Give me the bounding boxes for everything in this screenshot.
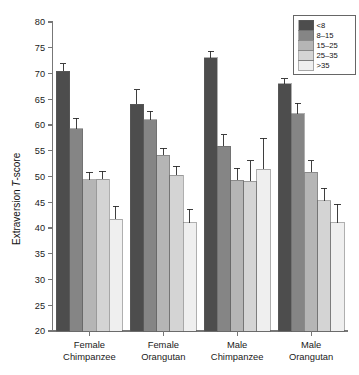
- legend-swatch-1: [299, 30, 314, 40]
- legend-swatch-3: [299, 51, 314, 61]
- bar-2-1: [217, 146, 230, 331]
- bar-3-4: [331, 223, 344, 331]
- bar-0-2: [83, 180, 96, 331]
- bar-1-1: [144, 120, 157, 331]
- y-axis-title: Extraversion T-score: [11, 152, 22, 245]
- bar-1-0: [130, 104, 143, 331]
- legend-label-2: 15–25: [317, 41, 338, 50]
- y-tick-label: 20: [35, 326, 45, 336]
- bar-0-4: [109, 219, 122, 331]
- y-tick-label: 45: [35, 198, 45, 208]
- legend-swatch-4: [299, 61, 314, 71]
- y-tick-label: 75: [35, 43, 45, 53]
- x-category-label-1-line1: Orangutan: [141, 351, 185, 362]
- x-category-label-3-line0: Male: [301, 339, 321, 350]
- bar-2-3: [244, 181, 257, 331]
- y-axis-title-suffix: -score: [11, 152, 22, 180]
- y-tick-label: 30: [35, 275, 45, 285]
- y-axis-title-prefix: Extraversion: [11, 187, 22, 245]
- y-tick-label: 25: [35, 301, 45, 311]
- bar-2-2: [231, 180, 244, 331]
- bar-0-3: [96, 179, 109, 331]
- y-tick-label: 65: [35, 95, 45, 105]
- bar-3-2: [304, 172, 317, 331]
- x-category-label-2-line1: Chimpanzee: [211, 351, 264, 362]
- y-tick-label: 35: [35, 249, 45, 259]
- legend-label-1: 8–15: [317, 31, 334, 40]
- bar-3-1: [291, 114, 304, 331]
- y-tick-label: 40: [35, 223, 45, 233]
- legend-label-4: >35: [317, 61, 330, 70]
- bar-0-0: [56, 71, 69, 331]
- bar-3-0: [278, 84, 291, 331]
- bar-1-2: [157, 155, 170, 331]
- chart-legend: <88–1515–2525–35>35: [294, 16, 356, 75]
- bar-3-3: [318, 201, 331, 331]
- y-axis-title-text: Extraversion T-score: [11, 152, 22, 245]
- x-category-label-3-line1: Orangutan: [289, 351, 333, 362]
- bar-2-0: [204, 58, 217, 331]
- chart-figure: Extraversion T-score 2025303540455055606…: [0, 0, 359, 375]
- bar-2-4: [257, 169, 270, 331]
- legend-swatch-2: [299, 40, 314, 50]
- x-category-label-2-line0: Male: [227, 339, 247, 350]
- y-tick-label: 55: [35, 146, 45, 156]
- x-category-label-0-line0: Female: [74, 339, 105, 350]
- legend-label-3: 25–35: [317, 51, 338, 60]
- bar-0-1: [70, 129, 83, 331]
- y-tick-label: 80: [35, 17, 45, 27]
- bar-1-3: [170, 175, 183, 331]
- x-category-label-0-line1: Chimpanzee: [63, 351, 116, 362]
- x-category-label-1-line0: Female: [148, 339, 179, 350]
- bar-1-4: [183, 223, 196, 331]
- y-tick-label: 70: [35, 69, 45, 79]
- legend-swatch-0: [299, 20, 314, 30]
- extraversion-tscore-grouped-bar-chart: Extraversion T-score 2025303540455055606…: [0, 0, 359, 375]
- y-tick-label: 50: [35, 172, 45, 182]
- legend-label-0: <8: [317, 21, 326, 30]
- y-tick-label: 60: [35, 120, 45, 130]
